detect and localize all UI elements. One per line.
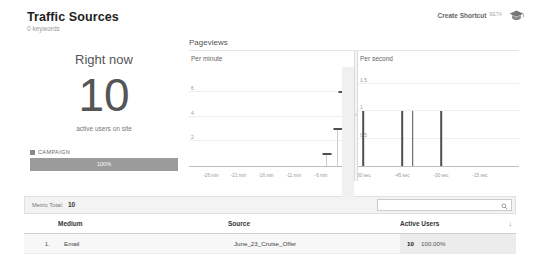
per-minute-bar-stem (337, 130, 339, 166)
per-second-chart-title: Per second (360, 55, 393, 62)
per-minute-ytick: 6 (191, 85, 194, 91)
row-active-users-percent: 100.00% (421, 240, 445, 247)
per-second-xtick: -30 sec (434, 173, 449, 178)
per-second-plot-area: 0.511.5-60 sec-45 sec-30 sec-15 sec (358, 67, 519, 167)
row-source[interactable]: June_23_Cruise_Offer (228, 234, 400, 254)
per-minute-gridline (189, 91, 354, 92)
per-second-gridline (358, 110, 519, 111)
per-second-bar (362, 111, 364, 166)
table-header-row: Medium Source Active Users ↓ (24, 214, 516, 234)
campaign-header[interactable]: CAMPAIGN (24, 149, 184, 155)
per-minute-xtick: -26 min (203, 173, 218, 178)
create-shortcut-button[interactable]: Create Shortcut BETA (438, 12, 502, 19)
per-second-bar (412, 111, 414, 166)
realtime-panel: Right now 10 active users on site CAMPAI… (24, 42, 184, 180)
per-second-ytick: 1.5 (360, 77, 367, 83)
per-second-xtick: -45 sec (395, 173, 410, 178)
per-minute-ytick: 2 (191, 134, 194, 140)
graduation-cap-icon[interactable] (509, 9, 524, 22)
create-shortcut-label: Create Shortcut (438, 12, 487, 19)
beta-badge: BETA (489, 12, 502, 17)
table-body: 1. Email June_23_Cruise_Offer 10 100.00% (24, 234, 516, 254)
pageviews-section: Pageviews Per minute 246-26 min-21 min-1… (189, 38, 519, 181)
page-header: Traffic Sources 0 keywords Create Shortc… (0, 0, 540, 36)
column-header-rank[interactable] (24, 214, 58, 234)
column-header-active-users[interactable]: Active Users ↓ (400, 214, 516, 234)
per-second-bar (401, 111, 403, 166)
keyword-count-label: 0 keywords (27, 25, 60, 32)
per-minute-xtick: -11 min (286, 173, 301, 178)
per-minute-gridline (189, 116, 354, 117)
column-header-medium[interactable]: Medium (58, 214, 228, 234)
metric-total-label: Metric Total: (32, 202, 63, 208)
search-input[interactable] (381, 202, 491, 208)
per-minute-plot-area: 246-26 min-21 min-16 min-11 min-6 min (189, 67, 354, 167)
per-minute-chart: Per minute 246-26 min-21 min-16 min-11 m… (189, 51, 354, 181)
page-title: Traffic Sources (27, 10, 119, 24)
per-second-gridline (358, 138, 519, 139)
per-minute-bar-stem (326, 155, 328, 166)
active-users-count: 10 (24, 69, 184, 121)
sources-data-table: Medium Source Active Users ↓ 1. Email Ju… (24, 213, 516, 254)
pageviews-title: Pageviews (189, 38, 519, 47)
campaign-percent-label: 100% (30, 161, 178, 167)
per-second-ytick: 1 (360, 104, 363, 110)
chevron-right-icon: › (355, 111, 357, 117)
campaign-breakdown: CAMPAIGN 100% (24, 149, 184, 171)
pageviews-charts: Per minute 246-26 min-21 min-16 min-11 m… (189, 50, 519, 180)
table-row[interactable]: 1. Email June_23_Cruise_Offer 10 100.00% (24, 234, 516, 254)
campaign-label: CAMPAIGN (38, 149, 70, 155)
charts-divider: › (354, 51, 358, 181)
search-icon[interactable] (501, 203, 508, 210)
column-header-source[interactable]: Source (228, 214, 400, 234)
row-active-users: 10 100.00% (400, 234, 516, 254)
campaign-swatch-icon (30, 150, 35, 155)
per-minute-chart-title: Per minute (191, 55, 222, 62)
column-header-active-users-label: Active Users (400, 220, 439, 227)
table-search-box[interactable] (377, 199, 512, 211)
sort-descending-icon[interactable]: ↓ (509, 220, 513, 227)
metric-total-value: 10 (68, 201, 75, 208)
table-head: Medium Source Active Users ↓ (24, 214, 516, 234)
row-rank: 1. (24, 234, 58, 254)
right-now-heading: Right now (24, 52, 184, 67)
per-minute-xtick: -6 min (315, 173, 328, 178)
per-minute-xtick: -21 min (231, 173, 246, 178)
per-second-gridline (358, 83, 519, 84)
per-second-xtick: -15 sec (473, 173, 488, 178)
row-active-users-value: 10 (400, 240, 414, 247)
campaign-progress-bar: 100% (30, 158, 178, 171)
current-minute-highlight (342, 67, 354, 197)
per-second-chart: Per second 0.511.5-60 sec-45 sec-30 sec-… (358, 51, 519, 181)
metric-total-bar: Metric Total: 10 (24, 196, 516, 213)
per-minute-gridline (189, 140, 354, 141)
per-minute-xtick: -16 min (258, 173, 273, 178)
per-minute-ytick: 4 (191, 110, 194, 116)
per-second-bar (440, 111, 442, 166)
active-users-caption: active users on site (24, 125, 184, 132)
row-medium[interactable]: Email (58, 234, 228, 254)
traffic-sources-table: Metric Total: 10 Medium Source Active Us… (24, 196, 516, 254)
